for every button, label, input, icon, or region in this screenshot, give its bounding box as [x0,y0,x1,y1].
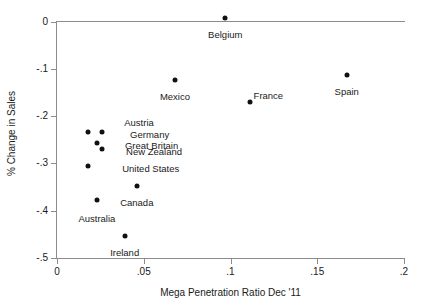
data-point-label: Germany [130,129,169,140]
data-point-marker[interactable] [94,198,99,203]
data-point-marker[interactable] [223,15,228,20]
y-axis-title: % Change in Sales [6,74,17,194]
data-point-marker[interactable] [86,163,91,168]
data-point-marker[interactable] [122,234,127,239]
data-point-marker[interactable] [247,99,252,104]
data-point-marker[interactable] [100,130,105,135]
data-points-layer: BelgiumMexicoFranceSpainAustriaGermanyGr… [0,0,421,308]
data-point-label: Spain [335,86,359,97]
data-point-marker[interactable] [94,141,99,146]
x-axis-title: Mega Penetration Ratio Dec '11 [56,287,405,298]
data-point-label: France [254,90,284,101]
data-point-marker[interactable] [86,130,91,135]
data-point-label: Mexico [160,91,190,102]
data-point-label: Belgium [208,29,242,40]
data-point-marker[interactable] [172,78,177,83]
data-point-marker[interactable] [344,72,349,77]
data-point-label: Canada [120,197,153,208]
data-point-label: New Zealand [126,146,182,157]
data-point-marker[interactable] [134,184,139,189]
data-point-label: Austria [124,117,154,128]
data-point-marker[interactable] [100,146,105,151]
data-point-label: Australia [78,213,115,224]
data-point-label: Ireland [110,247,139,258]
data-point-label: United States [122,163,179,174]
scatter-plot: 0-.1-.2-.3-.4-.5 0.05.1.15.2 BelgiumMexi… [0,0,421,308]
